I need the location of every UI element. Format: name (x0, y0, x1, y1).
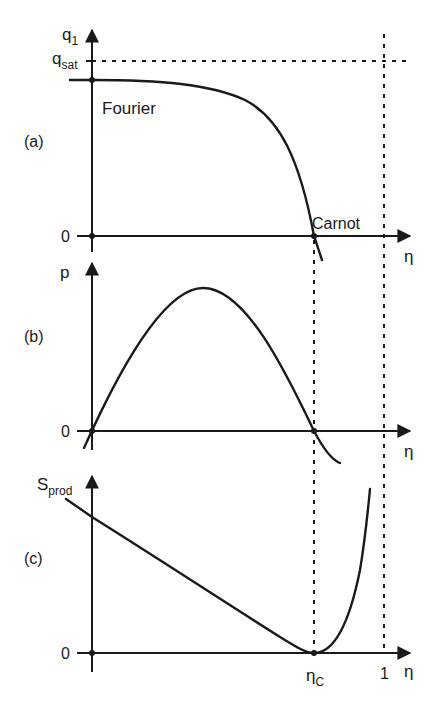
fourier-point (89, 77, 95, 83)
power-curve (84, 288, 340, 463)
panel-b: p (b) 0 η (24, 263, 413, 463)
origin-point-b (89, 428, 95, 434)
zero-label-c: 0 (61, 645, 70, 662)
entropy-production-curve (66, 489, 370, 653)
qsat-label: qsat (52, 49, 78, 72)
eta-label-c: η (404, 662, 413, 681)
sprod-axis-label: Sprod (37, 475, 72, 498)
carnot-label: Carnot (312, 215, 361, 232)
panel-c: Sprod (c) 0 ηC 1 η (24, 475, 413, 689)
carnot-point (311, 233, 317, 239)
zero-label-b: 0 (61, 423, 70, 440)
carnot-point-b (311, 428, 317, 434)
q1-axis-label: q1 (62, 25, 78, 48)
efficiency-diagram: q1 qsat Fourier (a) Carnot 0 η p (b) 0 η… (0, 0, 442, 713)
panel-c-label: (c) (24, 550, 43, 567)
origin-point-c (89, 650, 95, 656)
panel-b-label: (b) (24, 328, 44, 345)
carnot-point-c (311, 650, 317, 656)
eta-label-b: η (404, 442, 413, 461)
etac-tick-label: ηC (306, 666, 324, 689)
fourier-label: Fourier (102, 99, 156, 118)
origin-point-a (89, 233, 95, 239)
panel-a-label: (a) (24, 133, 44, 150)
zero-label-a: 0 (61, 228, 70, 245)
p-axis-label: p (60, 263, 69, 282)
eta-label-a: η (404, 247, 413, 266)
one-tick-label: 1 (380, 665, 389, 682)
panel-a: q1 qsat Fourier (a) Carnot 0 η (24, 25, 413, 266)
